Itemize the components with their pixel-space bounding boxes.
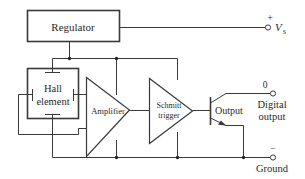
output-transistor-label: Output <box>215 105 243 116</box>
output-terminal <box>270 91 275 96</box>
amplifier-label: Amplifier <box>91 106 125 116</box>
hall-label-line2: element <box>36 96 69 107</box>
transistor-collector <box>211 94 227 104</box>
ground-terminal <box>270 155 275 160</box>
output-value: 0 <box>263 80 268 90</box>
schmitt-label-line2: trigger <box>158 111 180 120</box>
schmitt-label-line1: Schmitt <box>157 101 183 110</box>
hall-label-line1: Hall <box>44 83 62 94</box>
amplifier-block <box>87 78 130 157</box>
regulator-label: Regulator <box>51 21 95 33</box>
supply-subscript: s <box>283 27 286 36</box>
supply-terminal <box>265 25 270 30</box>
supply-polarity: + <box>267 12 273 23</box>
supply-label: V <box>275 21 283 33</box>
hall-sensor-diagram: Regulator Hall element Amplifier Schmitt… <box>0 0 305 179</box>
digital-output-line2: output <box>259 111 286 122</box>
digital-output-line1: Digital <box>257 99 286 110</box>
ground-label: Ground <box>256 163 289 174</box>
ground-polarity: – <box>270 142 276 152</box>
emitter-arrow-icon <box>218 121 226 126</box>
